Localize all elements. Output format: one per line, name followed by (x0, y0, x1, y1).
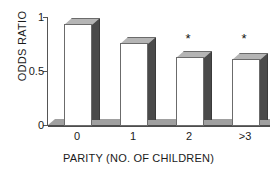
bar-side-face-3 (260, 53, 268, 120)
bar-front-face-1 (120, 43, 148, 126)
bar-front-face-2 (176, 57, 204, 126)
x-tick-label-0: 0 (57, 130, 97, 142)
odds-ratio-bar-chart: ODDS RATIO 1 0.5 0 (0, 0, 277, 175)
bar-parity-gt3 (232, 53, 260, 126)
bar-front-face-3 (232, 59, 260, 126)
significance-marker-parity-2: * (181, 34, 195, 44)
x-tick-label-gt3: >3 (225, 130, 265, 142)
x-tick-label-2: 2 (169, 130, 209, 142)
bar-parity-2 (176, 51, 204, 126)
x-axis-title: PARITY (NO. OF CHILDREN) (0, 152, 277, 164)
significance-marker-parity-gt3: * (237, 34, 251, 44)
plot-area: * * (48, 12, 270, 126)
bar-side-face-0 (92, 18, 100, 120)
y-tick-label-0.5: 0.5 (14, 65, 44, 77)
bar-front-face-0 (64, 24, 92, 126)
y-tick-label-1: 1 (14, 11, 44, 23)
x-tick-label-1: 1 (113, 130, 153, 142)
bar-side-face-2 (204, 51, 212, 120)
bar-parity-1 (120, 37, 148, 126)
bar-side-face-1 (148, 37, 156, 120)
bar-parity-0 (64, 18, 92, 126)
y-tick-label-0: 0 (14, 119, 44, 131)
